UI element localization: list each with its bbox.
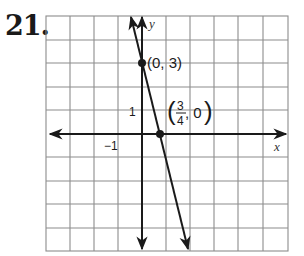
tick-label-x-neg1: −1: [104, 139, 118, 153]
x-axis-label: x: [273, 139, 280, 154]
point-y-intercept: [138, 59, 146, 67]
svg-text:(: (: [167, 96, 176, 126]
point-x-intercept: [156, 130, 164, 138]
fraction-numerator: 3: [177, 99, 184, 113]
point-label-rest: , 0: [185, 104, 202, 121]
coordinate-graph: y x 1 −1 (0, 3) ( 3 4 , 0 ): [0, 0, 304, 256]
y-axis-label: y: [147, 16, 155, 31]
tick-label-y-1: 1: [129, 105, 136, 119]
fraction-denominator: 4: [177, 114, 184, 128]
point-label-y-intercept: (0, 3): [147, 54, 182, 71]
svg-text:): ): [204, 96, 213, 126]
